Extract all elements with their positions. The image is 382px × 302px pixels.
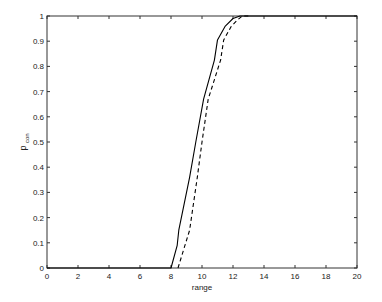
x-tick-label: 18 [322,272,331,281]
x-tick-label: 14 [260,272,269,281]
chart-figure: 02468101214161820 00.10.20.30.40.50.60.7… [0,0,382,302]
line-chart: 02468101214161820 00.10.20.30.40.50.60.7… [0,0,382,302]
y-tick-label: 0.3 [33,188,45,197]
x-tick-label: 0 [45,272,50,281]
y-tick-label: 0.1 [33,239,45,248]
x-tick-label: 4 [107,272,112,281]
x-tick-label: 16 [291,272,300,281]
x-tick-label: 2 [76,272,81,281]
y-tick-label: 0 [40,264,45,273]
x-axis-ticks: 02468101214161820 [45,16,362,281]
y-tick-label: 0.2 [33,214,45,223]
y-axis-label: p con [18,133,30,150]
y-tick-label: 0.5 [33,138,45,147]
y-tick-label: 0.8 [33,62,45,71]
y-axis-ticks: 00.10.20.30.40.50.60.70.80.91 [33,12,357,273]
y-tick-label: 0.7 [33,88,45,97]
y-axis-label-subscript: con [24,133,30,143]
x-tick-label: 8 [169,272,174,281]
y-axis-label-main: p [18,146,28,151]
series-line-dashed [178,16,249,268]
x-tick-label: 6 [138,272,143,281]
y-tick-label: 0.6 [33,113,45,122]
x-axis-label: range [192,283,213,292]
y-tick-label: 0.4 [33,163,45,172]
plot-series [47,16,357,268]
y-tick-label: 1 [40,12,45,21]
x-tick-label: 10 [198,272,207,281]
x-tick-label: 20 [353,272,362,281]
x-tick-label: 12 [229,272,238,281]
y-tick-label: 0.9 [33,37,45,46]
